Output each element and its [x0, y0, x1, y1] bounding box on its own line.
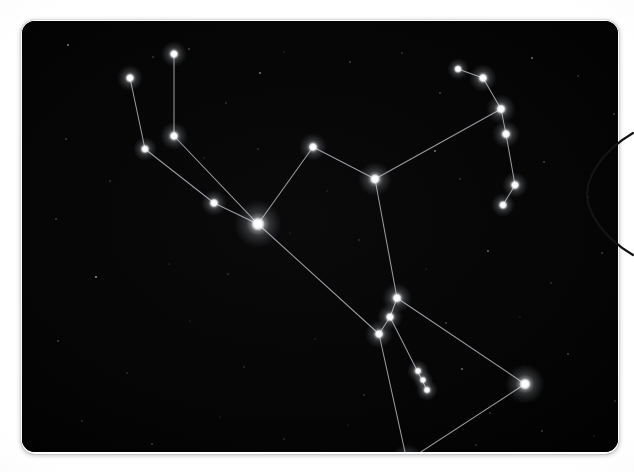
- background-star: [531, 57, 533, 59]
- background-star: [259, 72, 261, 74]
- background-star: [567, 353, 569, 355]
- background-star: [126, 372, 127, 373]
- background-star: [227, 273, 228, 274]
- background-star: [434, 150, 436, 152]
- background-star: [349, 61, 351, 63]
- background-star: [219, 416, 220, 417]
- star-saiph-foot: [519, 378, 530, 389]
- constellation-photo: [22, 21, 618, 452]
- background-star: [289, 232, 290, 233]
- background-star: [57, 340, 59, 342]
- background-star: [65, 138, 67, 140]
- background-star: [593, 435, 594, 436]
- background-star: [188, 48, 190, 50]
- star-sword-middle: [420, 377, 426, 383]
- star-bow-tip-bottom: [499, 201, 507, 209]
- background-star: [55, 218, 57, 220]
- screenshot-root: Orion constellation night sky photograph: [0, 0, 634, 472]
- background-star: [189, 320, 190, 321]
- star-bellatrix-shoulder: [251, 217, 264, 230]
- background-star: [445, 322, 447, 324]
- constellation-line: [375, 109, 501, 179]
- background-star: [613, 113, 615, 115]
- background-star: [314, 338, 315, 339]
- constellation-line: [375, 179, 397, 298]
- background-star: [439, 92, 441, 94]
- background-star: [283, 51, 284, 52]
- star-bow-upper: [479, 74, 488, 83]
- star-core-layer: [126, 50, 531, 452]
- star-belt-star-center: [386, 313, 394, 321]
- star-arm-elbow: [141, 145, 149, 153]
- background-star: [283, 438, 284, 439]
- background-star: [577, 75, 578, 76]
- constellation-line: [145, 149, 214, 203]
- star-belt-star-right: [375, 330, 384, 339]
- background-star: [519, 316, 520, 317]
- background-star: [425, 268, 426, 269]
- star-sword-upper: [415, 368, 422, 375]
- background-star: [461, 368, 463, 370]
- background-star: [541, 430, 543, 432]
- star-bow-lower: [511, 181, 519, 189]
- background-star: [543, 161, 545, 163]
- star-upper-club-tip: [170, 50, 178, 58]
- background-star: [401, 52, 402, 53]
- star-betelgeuse-shoulder: [370, 174, 380, 184]
- background-star: [487, 250, 489, 252]
- background-star: [475, 444, 476, 445]
- star-upper-body-peak: [309, 143, 318, 152]
- star-bow-tip-top: [454, 65, 462, 73]
- constellation-line: [258, 224, 379, 334]
- background-star: [81, 420, 82, 421]
- star-map-svg: [22, 21, 618, 452]
- background-star: [459, 178, 460, 179]
- star-belt-star-left: [392, 293, 401, 302]
- background-star: [151, 443, 153, 445]
- background-star: [326, 190, 327, 191]
- star-bow-mid: [502, 130, 511, 139]
- star-upper-left-arm-tip: [126, 74, 134, 82]
- star-sword-lower: [424, 387, 431, 394]
- star-glow: [390, 444, 424, 452]
- background-star: [225, 102, 226, 103]
- background-star: [601, 252, 603, 254]
- star-glow-layer: [117, 41, 545, 452]
- background-star: [550, 282, 551, 283]
- background-star: [109, 180, 110, 181]
- background-star: [257, 148, 258, 149]
- background-star: [489, 412, 490, 413]
- constellation-line: [379, 334, 407, 452]
- constellation-line-layer: [130, 54, 525, 452]
- background-star: [614, 400, 615, 401]
- background-star: [95, 276, 97, 278]
- star-bow-joint: [496, 104, 505, 113]
- star-arm-wrist: [210, 199, 219, 208]
- background-star: [358, 239, 359, 240]
- background-star: [168, 263, 169, 264]
- background-star: [587, 196, 588, 197]
- background-star: [203, 157, 204, 158]
- background-star: [67, 44, 69, 46]
- background-star: [152, 56, 153, 57]
- background-star: [347, 424, 348, 425]
- background-star: [243, 366, 244, 367]
- background-star: [363, 394, 364, 395]
- star-club-mid: [170, 132, 179, 141]
